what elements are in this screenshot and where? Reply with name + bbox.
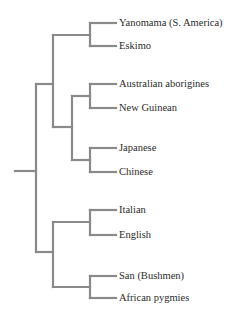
- leaf-label-new-guinean: New Guinean: [119, 102, 177, 114]
- leaf-label-eskimo: Eskimo: [119, 40, 151, 52]
- leaf-label-japanese: Japanese: [119, 142, 156, 154]
- leaf-label-chinese: Chinese: [119, 166, 153, 178]
- leaf-label-african-pygmies: African pygmies: [119, 292, 189, 304]
- leaf-label-english: English: [119, 229, 151, 241]
- leaf-label-yanomama: Yanomama (S. America): [119, 17, 223, 29]
- leaf-label-australian-aborigines: Australian aborigines: [119, 78, 209, 90]
- leaf-label-san: San (Bushmen): [119, 270, 184, 282]
- leaf-label-italian: Italian: [119, 204, 146, 216]
